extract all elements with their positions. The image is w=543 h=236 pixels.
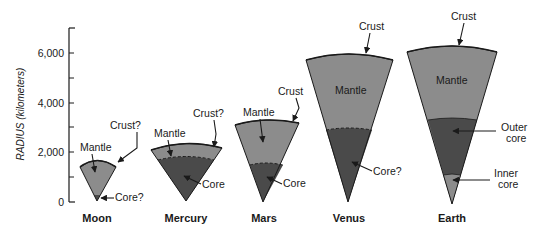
mercury-mantle-label: Mantle <box>154 127 186 139</box>
venus-core-label: Core? <box>373 165 402 177</box>
y-tick-0: 0 <box>58 196 64 208</box>
mercury-name: Mercury <box>165 212 209 224</box>
earth-name: Earth <box>438 212 466 224</box>
mercury-core-label: Core <box>202 178 225 190</box>
mars-core-label: Core <box>283 177 306 189</box>
moon-mantle-label: Mantle <box>80 141 112 153</box>
venus-wedge: Mantle Crust Core? Venus <box>306 20 402 224</box>
mars-mantle-label: Mantle <box>243 106 275 118</box>
y-tick-6000: 6,000 <box>38 47 64 59</box>
planetary-interiors-diagram: 0 2,000 4,000 6,000 RADIUS (kilometers) … <box>0 0 543 236</box>
earth-mantle-label: Mantle <box>436 74 468 86</box>
moon-crust-label: Crust? <box>110 119 141 131</box>
venus-mantle-label: Mantle <box>335 84 367 96</box>
y-tick-4000: 4,000 <box>38 97 64 109</box>
mars-wedge: Mantle Crust Core Mars <box>235 85 306 224</box>
venus-crust-label: Crust <box>359 20 384 32</box>
moon-name: Moon <box>82 212 112 224</box>
y-axis: 0 2,000 4,000 6,000 RADIUS (kilometers) <box>15 28 75 208</box>
earth-crust-label: Crust <box>451 10 476 22</box>
mercury-crust-label: Crust? <box>193 107 224 119</box>
y-tick-2000: 2,000 <box>38 146 64 158</box>
venus-name: Venus <box>333 212 365 224</box>
moon-wedge: Mantle Crust? Core? Moon <box>80 119 144 224</box>
earth-outer-core-label-2: core <box>506 132 527 144</box>
earth-wedge: Mantle Crust Outer core Inner core Earth <box>407 10 528 224</box>
moon-core-label: Core? <box>115 191 144 203</box>
earth-inner-core-label-2: core <box>498 178 519 190</box>
mars-name: Mars <box>251 212 277 224</box>
mercury-wedge: Mantle Crust? Core Mercury <box>151 107 225 224</box>
y-axis-title: RADIUS (kilometers) <box>15 68 26 161</box>
mars-crust-label: Crust <box>278 85 303 97</box>
